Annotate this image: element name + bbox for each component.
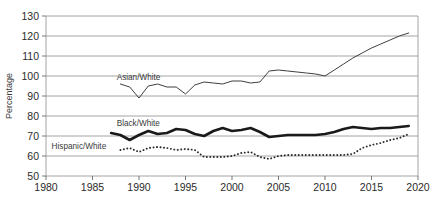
- series-line-asian-white: [120, 33, 408, 98]
- x-tick-label: 2005: [267, 181, 291, 193]
- x-tick-label: 1985: [81, 181, 105, 193]
- series-label-hispanic-white: Hispanic/White: [52, 142, 107, 151]
- y-tick-label: 110: [22, 50, 39, 62]
- y-tick-label: 90: [27, 90, 39, 102]
- x-tick-label: 2000: [220, 181, 244, 193]
- x-tick-label: 2010: [313, 181, 337, 193]
- y-tick-label: 50: [27, 170, 39, 182]
- y-tick-label: 60: [27, 150, 39, 162]
- chart-container: 5060708090100110120130198019851990199520…: [0, 0, 433, 201]
- y-tick-label: 100: [21, 70, 39, 82]
- series-line-hispanic-white: [120, 134, 408, 159]
- series-label-asian-white: Asian/White: [117, 73, 161, 82]
- x-tick-label: 1995: [174, 181, 198, 193]
- line-chart: 5060708090100110120130198019851990199520…: [0, 0, 433, 201]
- y-tick-label: 70: [27, 130, 39, 142]
- x-tick-label: 2015: [360, 181, 384, 193]
- series-label-black-white: Black/White: [117, 119, 161, 128]
- series-line-black-white: [111, 126, 409, 140]
- x-tick-label: 2020: [406, 181, 430, 193]
- y-axis-title: Percentage: [4, 73, 14, 119]
- y-tick-label: 120: [21, 30, 39, 42]
- x-tick-label: 1980: [34, 181, 58, 193]
- y-tick-label: 130: [21, 10, 39, 22]
- x-tick-label: 1990: [127, 181, 151, 193]
- y-tick-label: 80: [27, 110, 39, 122]
